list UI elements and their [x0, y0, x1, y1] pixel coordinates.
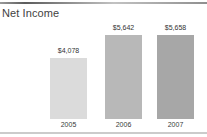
bottom-rule-divider [0, 132, 207, 134]
bar-category-label: 2007 [157, 121, 194, 129]
bar-chart: $4,0782005$5,6422006$5,6582007 [0, 0, 207, 137]
bar-category-label: 2005 [50, 121, 87, 129]
bar-category-label: 2006 [105, 121, 142, 129]
bar-value-label: $5,658 [157, 24, 194, 32]
bar-2005 [50, 58, 87, 119]
bar-2007 [157, 35, 194, 119]
bar-2006 [105, 35, 142, 119]
bar-value-label: $5,642 [105, 24, 142, 32]
net-income-chart-panel: Net Income $4,0782005$5,6422006$5,658200… [0, 0, 207, 137]
bar-value-label: $4,078 [50, 47, 87, 55]
